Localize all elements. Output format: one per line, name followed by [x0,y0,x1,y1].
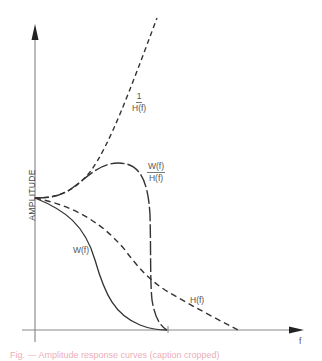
label-h: H(f) [190,296,204,305]
y-axis-arrow-icon [32,24,39,40]
x-axis-label: f [299,337,301,346]
curve-h [35,198,238,330]
figure-caption-cropped: Fig. — Amplitude response curves (captio… [10,350,320,361]
x-axis-arrow-icon [289,327,304,334]
label-w-over-h-numerator: W(f) [147,162,165,173]
label-w-over-h-denominator: H(f) [149,173,163,183]
label-inverse-h-numerator: 1 [136,92,143,103]
label-inverse-h-denominator: H(f) [132,103,146,113]
curve-w [35,198,167,330]
label-w: W(f) [73,246,89,255]
y-axis-label: AMPLITUDE [27,169,37,220]
label-w-over-h: W(f) H(f) [147,162,165,182]
label-inverse-h: 1 H(f) [132,92,146,112]
curve-w-over-h [35,163,167,330]
